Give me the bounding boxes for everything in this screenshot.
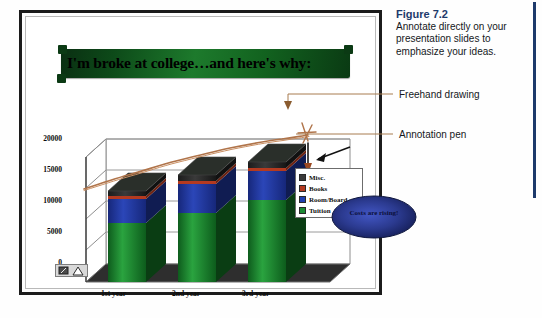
banner-corner-decoration xyxy=(57,74,66,83)
figure-page: I'm broke at college…and here's why: xyxy=(0,0,542,318)
bar-2nd-year xyxy=(178,157,236,282)
triangle-icon[interactable] xyxy=(72,266,84,276)
slide-title-text: I'm broke at college…and here's why: xyxy=(67,54,350,72)
figure-caption: Figure 7.2 Annotate directly on your pre… xyxy=(396,8,526,58)
legend-item-books[interactable]: Books xyxy=(299,183,359,194)
y-tick-10000: 10000 xyxy=(28,196,62,205)
slide-canvas[interactable]: I'm broke at college…and here's why: xyxy=(25,16,376,289)
figure-description: Annotate directly on your presentation s… xyxy=(396,21,526,58)
annotation-label-annotation-pen: Annotation pen xyxy=(399,129,466,140)
bar-1st-year xyxy=(108,173,166,282)
x-tick-1st-year: 1st year xyxy=(101,289,126,298)
legend-label-misc: Misc. xyxy=(309,174,325,182)
legend-label-tuition: Tuition xyxy=(309,207,331,215)
annotation-pen-toolbar[interactable] xyxy=(55,264,88,277)
y-tick-20000: 20000 xyxy=(28,134,62,143)
presentation-slide[interactable]: I'm broke at college…and here's why: xyxy=(19,10,382,295)
page-right-rule xyxy=(533,2,536,198)
legend-swatch-room-board xyxy=(299,196,306,203)
legend-swatch-misc xyxy=(299,174,306,181)
stacked-column-chart[interactable]: 20000 15000 10000 5000 0 1st year 2nd ye… xyxy=(50,99,370,284)
slide-title-banner[interactable]: I'm broke at college…and here's why: xyxy=(61,49,350,78)
callout-ellipse[interactable]: Costs are rising! xyxy=(331,195,417,239)
legend-label-books: Books xyxy=(309,185,327,193)
x-tick-2nd-year: 2nd year xyxy=(172,289,200,298)
figure-number: Figure 7.2 xyxy=(396,8,526,20)
legend-item-misc[interactable]: Misc. xyxy=(299,172,359,183)
pen-icon[interactable] xyxy=(58,266,70,276)
callout-ellipse-shape xyxy=(331,195,417,239)
annotation-label-freehand-drawing: Freehand drawing xyxy=(399,89,480,100)
y-tick-5000: 5000 xyxy=(28,227,62,236)
x-tick-3rd-year: 3rd year xyxy=(242,289,269,298)
legend-swatch-books xyxy=(299,185,306,192)
y-tick-15000: 15000 xyxy=(28,165,62,174)
legend-swatch-tuition xyxy=(299,207,306,214)
